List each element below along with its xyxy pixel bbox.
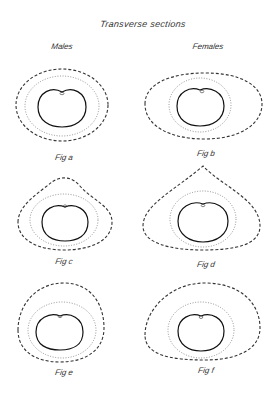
figure-b [145, 73, 262, 139]
figure-c [18, 178, 112, 250]
sections-drawing [0, 0, 277, 395]
figure-label-d: Fig d [196, 260, 215, 269]
figure-label-c: Fig c [55, 257, 74, 266]
figure-e [18, 283, 104, 362]
figure-d [143, 166, 260, 250]
figure-label-a: Fig a [54, 153, 73, 162]
figure-label-e: Fig e [54, 368, 73, 377]
figure-label-b: Fig b [196, 149, 215, 158]
figure-f [145, 283, 260, 360]
figure-label-f: Fig f [198, 366, 215, 375]
figure-a [16, 69, 108, 141]
